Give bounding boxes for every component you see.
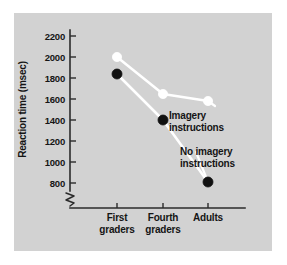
axis-break-icon: [66, 193, 74, 206]
data-point-no-imagery-fourth-graders: [158, 115, 168, 125]
annotation-no-imagery-line2: instructions: [180, 158, 235, 170]
y-tick-label-800: 800: [31, 178, 65, 189]
y-axis-title: Reaction time (msec): [17, 50, 28, 170]
figure-container: 2200 2000 1800 1600 1400 1200 1000 800 R…: [0, 0, 287, 265]
annotation-imagery-line2: instructions: [169, 122, 224, 134]
y-tick-label-2000: 2000: [31, 52, 65, 63]
annotation-imagery-instructions: Imagery instructions: [169, 110, 224, 133]
x-tick-label-fourth-graders-line2: graders: [145, 224, 180, 235]
y-tick-label-1400: 1400: [31, 115, 65, 126]
annotation-imagery-line1: Imagery: [169, 110, 206, 121]
data-point-imagery-fourth-graders: [158, 89, 167, 98]
annotation-no-imagery-instructions: No imagery instructions: [180, 146, 235, 169]
x-tick-label-fourth-graders-line1: Fourth: [148, 212, 178, 223]
data-point-imagery-adults: [203, 96, 212, 105]
y-tick-label-1600: 1600: [31, 94, 65, 105]
y-tick-label-1200: 1200: [31, 136, 65, 147]
annotation-no-imagery-line1: No imagery: [180, 146, 232, 157]
x-tick-label-first-graders-line1: First: [107, 212, 128, 223]
y-tick-label-1000: 1000: [31, 157, 65, 168]
x-tick-label-adults-line1: Adults: [193, 212, 223, 223]
x-tick-label-adults: Adults: [177, 212, 239, 224]
data-point-imagery-first-graders: [112, 52, 121, 61]
data-point-no-imagery-first-graders: [112, 69, 122, 79]
data-point-no-imagery-adults: [203, 177, 213, 187]
x-tick-label-first-graders-line2: graders: [99, 224, 134, 235]
y-tick-label-2200: 2200: [31, 31, 65, 42]
y-tick-label-1800: 1800: [31, 73, 65, 84]
